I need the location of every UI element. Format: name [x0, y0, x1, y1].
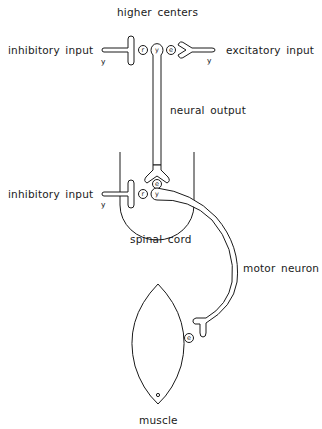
title-higher-centers: higher centers: [117, 6, 198, 18]
receptor-e-spinal: e: [153, 180, 162, 189]
label-inhibitory-input-top: inhibitory input: [8, 44, 93, 56]
svg-text:y: y: [155, 46, 159, 54]
receptor-e-muscle: e: [185, 334, 194, 343]
label-motor-neuron: motor neuron: [243, 262, 319, 274]
inhibitory-fiber-spinal: [102, 180, 134, 208]
glyph-spinal-inhibitory-y: y: [101, 200, 106, 209]
label-neural-output: neural output: [170, 104, 246, 116]
svg-text:e: e: [169, 46, 173, 54]
neural-control-diagram: higher centers inhibitory input y r y e …: [0, 0, 322, 429]
motor-neuron: y: [151, 188, 238, 337]
inhibitory-fiber-top: [102, 36, 134, 65]
receptor-r-top: r: [139, 46, 148, 55]
neuron-body-top: y: [151, 44, 163, 165]
label-muscle: muscle: [139, 414, 178, 426]
svg-text:e: e: [187, 334, 191, 342]
svg-text:r: r: [142, 190, 145, 198]
svg-text:e: e: [155, 180, 159, 188]
receptor-r-spinal: r: [139, 190, 148, 199]
muscle: [132, 284, 184, 404]
svg-text:y: y: [155, 190, 159, 198]
receptor-e-top: e: [167, 46, 176, 55]
glyph-top-inhibitory-y: y: [101, 57, 106, 66]
glyph-top-excitatory-y: y: [207, 56, 212, 65]
label-spinal-cord: spinal cord: [130, 233, 192, 245]
label-inhibitory-input-spinal: inhibitory input: [8, 188, 93, 200]
svg-text:r: r: [142, 46, 145, 54]
label-excitatory-input-top: excitatory input: [226, 44, 314, 56]
